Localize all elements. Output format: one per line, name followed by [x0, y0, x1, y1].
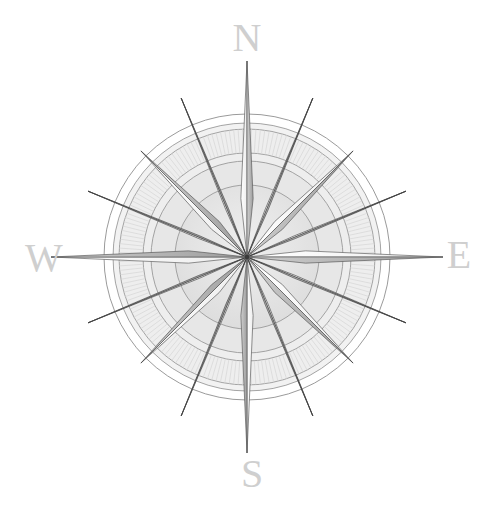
label-south: S — [241, 451, 263, 496]
label-west: W — [25, 235, 63, 280]
label-east: E — [447, 232, 471, 277]
compass-figure: NESW — [0, 0, 496, 529]
compass-rose-svg: NESW — [0, 0, 496, 529]
label-north: N — [233, 15, 262, 60]
compass-center-hub — [245, 255, 249, 259]
